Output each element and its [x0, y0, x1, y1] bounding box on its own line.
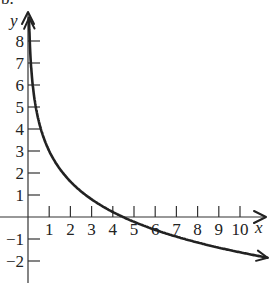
x-tick-label: 8: [193, 220, 202, 239]
x-tick-label: 1: [45, 220, 54, 239]
y-tick-label: 2: [16, 164, 25, 183]
y-tick-label: 1: [16, 186, 25, 205]
y-tick-label: 5: [16, 98, 25, 117]
x-tick-label: 9: [215, 220, 224, 239]
y-ticks: −2−112345678: [6, 32, 40, 271]
x-ticks: 12345678910: [45, 206, 249, 239]
y-tick-label: 3: [16, 142, 25, 161]
x-tick-label: 4: [109, 220, 118, 239]
x-tick-label: 10: [232, 220, 249, 239]
y-tick-label: 4: [16, 120, 25, 139]
x-tick-label: 3: [87, 220, 96, 239]
y-tick-label: 8: [16, 32, 25, 51]
y-tick-label: −2: [6, 252, 24, 271]
axes: y x: [0, 11, 266, 283]
y-tick-label: 6: [16, 76, 25, 95]
x-axis-label: x: [254, 218, 263, 237]
y-axis-label: y: [8, 11, 18, 30]
log-function-graph: b. y x 12345678910 −2−112345678: [0, 0, 276, 283]
y-tick-label: −1: [6, 230, 24, 249]
y-tick-label: 7: [16, 54, 25, 73]
x-tick-label: 2: [66, 220, 75, 239]
corner-fragment: b.: [1, 0, 14, 8]
